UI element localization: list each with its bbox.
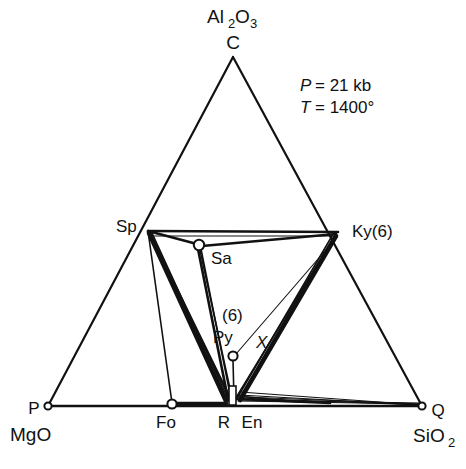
corner-top-formula-main: Al xyxy=(207,6,224,27)
phase-label-x-mark: X xyxy=(255,333,268,352)
corner-left-formula: MgO xyxy=(10,424,51,445)
node-fo xyxy=(167,399,176,408)
temperature-value: = 1400° xyxy=(315,98,374,117)
phase-label-py: Py xyxy=(213,328,233,347)
node-q xyxy=(418,402,425,409)
ternary-diagram-canvas: Al 2 O 3 C P = 21 kb T = 1400° Sp Ky(6) … xyxy=(0,0,466,469)
corner-right-formula-sub: 2 xyxy=(448,435,455,450)
phase-label-sp: Sp xyxy=(116,217,137,236)
node-p xyxy=(44,402,51,409)
node-py xyxy=(228,351,237,360)
phase-label-py-coordination: (6) xyxy=(222,306,243,325)
corner-right-formula-main: SiO xyxy=(413,425,445,446)
phase-label-ky: Ky(6) xyxy=(352,222,393,241)
corner-left-phase-label: P xyxy=(28,399,39,418)
ternary-diagram: Al 2 O 3 C P = 21 kb T = 1400° Sp Ky(6) … xyxy=(0,0,466,469)
conditions-block: P = 21 kb T = 1400° xyxy=(300,76,374,117)
node-sa xyxy=(194,240,204,250)
corner-top-formula-sub2: 3 xyxy=(250,16,257,31)
pressure-value: = 21 kb xyxy=(315,76,371,95)
corner-top-phase-label: C xyxy=(226,32,240,53)
corner-top-formula-mid: O xyxy=(235,6,250,27)
convergence-stem-r-en xyxy=(229,386,236,405)
tieline-ky-py xyxy=(236,237,337,354)
phase-label-sa: Sa xyxy=(211,249,232,268)
temperature-symbol: T xyxy=(300,98,312,117)
phase-label-r: R xyxy=(218,413,230,432)
phase-label-fo: Fo xyxy=(156,413,176,432)
phase-label-en: En xyxy=(242,413,263,432)
corner-right-formula: SiO 2 xyxy=(413,425,455,450)
corner-top-formula: Al 2 O 3 xyxy=(207,6,257,31)
pressure-symbol: P xyxy=(300,76,312,95)
tieline-ky-en xyxy=(234,236,336,401)
corner-right-phase-label: Q xyxy=(431,401,444,420)
